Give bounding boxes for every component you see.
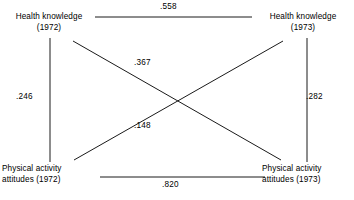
node-label-line2: attitudes (1973) (262, 174, 354, 185)
node-label-line1: Health knowledge (256, 11, 350, 22)
edge-value-top-horizontal: .558 (160, 2, 177, 11)
node-label-line1: Health knowledge (4, 11, 94, 22)
node-physical-activity-attitudes-1973: Physical activity attitudes (1973) (262, 163, 354, 185)
edge-value-diagonal-descending: .367 (134, 58, 151, 67)
node-label-line1: Physical activity (262, 163, 354, 174)
edge-value-right-vertical: .282 (306, 92, 323, 101)
node-label-line2: (1973) (256, 22, 350, 33)
edge-value-bottom-horizontal: .820 (162, 180, 179, 189)
edge-value-left-vertical: .246 (16, 92, 33, 101)
node-label-line2: attitudes (1972) (2, 174, 106, 185)
node-health-knowledge-1972: Health knowledge (1972) (4, 11, 94, 33)
diagram-canvas: Health knowledge (1972) Health knowledge… (0, 0, 354, 200)
node-label-line1: Physical activity (2, 163, 106, 174)
node-label-line2: (1972) (4, 22, 94, 33)
node-health-knowledge-1973: Health knowledge (1973) (256, 11, 350, 33)
node-physical-activity-attitudes-1972: Physical activity attitudes (1972) (2, 163, 106, 185)
edge-line-diagonal-ascending (74, 41, 283, 160)
edge-value-diagonal-ascending: .148 (134, 121, 151, 130)
edge-line-diagonal-descending (73, 41, 281, 160)
